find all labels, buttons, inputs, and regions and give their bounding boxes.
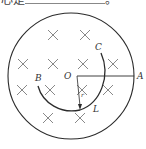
field-cross-icon bbox=[78, 59, 88, 69]
label-O: O bbox=[64, 71, 72, 81]
field-cross-icon bbox=[48, 30, 58, 40]
label-L: L bbox=[92, 104, 99, 114]
field-cross-icon bbox=[80, 30, 90, 40]
label-C: C bbox=[95, 42, 102, 52]
trajectory-arc bbox=[38, 53, 105, 111]
field-cross-icon bbox=[103, 85, 113, 95]
field-cross-icon bbox=[108, 59, 118, 69]
field-cross-icon bbox=[75, 113, 85, 123]
magnetic-field-diagram: O A B C L r bbox=[0, 0, 146, 149]
field-cross-icon bbox=[18, 59, 28, 69]
label-B: B bbox=[34, 73, 42, 83]
field-cross-icon bbox=[17, 85, 27, 95]
field-cross-icon bbox=[43, 113, 53, 123]
radius-r-line bbox=[77, 76, 80, 106]
label-A: A bbox=[136, 71, 144, 81]
field-cross-icon bbox=[48, 59, 58, 69]
field-cross-icon bbox=[45, 85, 55, 95]
